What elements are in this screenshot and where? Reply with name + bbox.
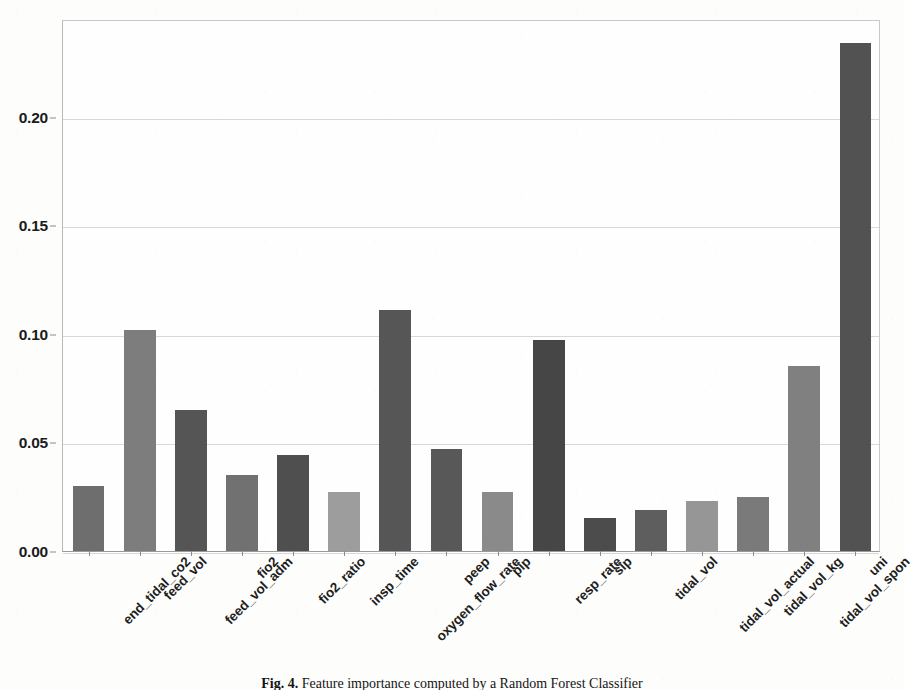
caption-label: Fig. 4. xyxy=(261,676,298,690)
bar-oxygen_flow_rate xyxy=(379,310,411,551)
y-tick-mark xyxy=(50,117,56,118)
x-tick-label-fio2_ratio: fio2_ratio xyxy=(316,554,369,607)
bar-tidal_vol xyxy=(635,510,667,551)
figure-caption: Fig. 4. Feature importance computed by a… xyxy=(0,676,904,690)
bar-sip xyxy=(584,518,616,551)
bar-tidal_vol_kg xyxy=(737,497,769,551)
bar-peep xyxy=(431,449,463,551)
gridline-0.10 xyxy=(63,336,879,337)
y-tick-mark xyxy=(50,443,56,444)
gridline-0.20 xyxy=(63,119,879,120)
x-axis: end_tidal_co2feed_volfeed_vol_admfio2fio… xyxy=(62,554,880,674)
bar-pip xyxy=(482,492,514,551)
bar-fio2 xyxy=(226,475,258,551)
bar-insp_time xyxy=(328,492,360,551)
bar-tidal_vol_actual xyxy=(686,501,718,551)
bar-tidal_vol_spon xyxy=(788,366,820,551)
bar-feed_vol_adm xyxy=(175,410,207,551)
bar-uni xyxy=(840,43,872,551)
bar-resp_rate xyxy=(533,340,565,551)
caption-text: Feature importance computed by a Random … xyxy=(302,676,643,690)
y-tick-label: 0.10 xyxy=(19,326,48,344)
bar-end_tidal_co2 xyxy=(73,486,105,551)
gridline-0.15 xyxy=(63,227,879,228)
y-tick-label: 0.00 xyxy=(19,543,48,561)
y-tick-label: 0.05 xyxy=(19,434,48,452)
bar-feed_vol xyxy=(124,330,156,551)
bar-fio2_ratio xyxy=(277,455,309,551)
y-tick-label: 0.15 xyxy=(19,217,48,235)
y-axis: 0.000.050.100.150.20 xyxy=(0,20,56,552)
plot-area xyxy=(62,20,880,552)
x-tick-label-insp_time: insp_time xyxy=(367,554,422,609)
y-tick-mark xyxy=(50,334,56,335)
x-tick-label-tidal_vol: tidal_vol xyxy=(672,554,721,603)
y-tick-mark xyxy=(50,226,56,227)
y-tick-label: 0.20 xyxy=(19,109,48,127)
y-tick-mark xyxy=(50,552,56,553)
